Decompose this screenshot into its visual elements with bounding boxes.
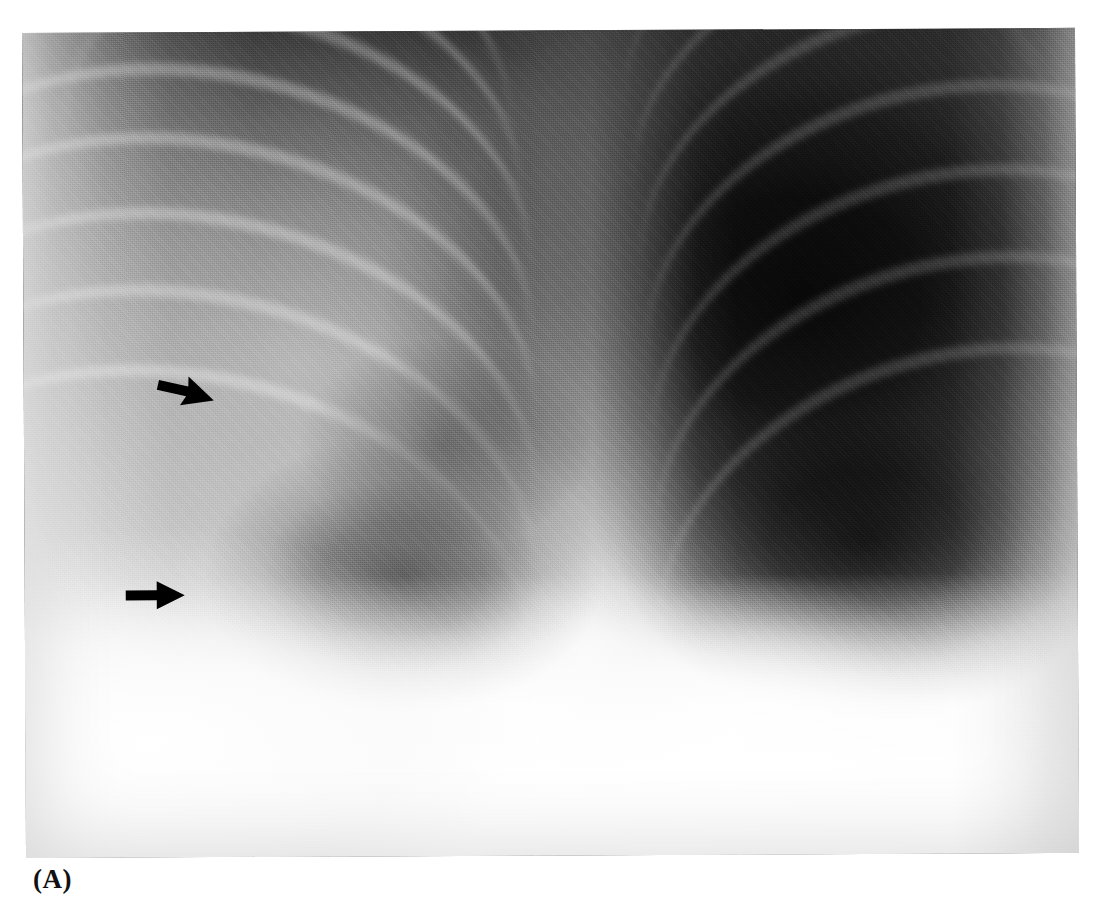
rib-cage-overlay: [22, 28, 1079, 858]
figure-root: (A): [0, 0, 1103, 899]
upper-arrow-icon: [154, 373, 218, 413]
panel-label: (A): [33, 864, 72, 894]
chest-radiograph-image: [22, 28, 1079, 858]
lower-arrow-icon: [124, 578, 188, 612]
